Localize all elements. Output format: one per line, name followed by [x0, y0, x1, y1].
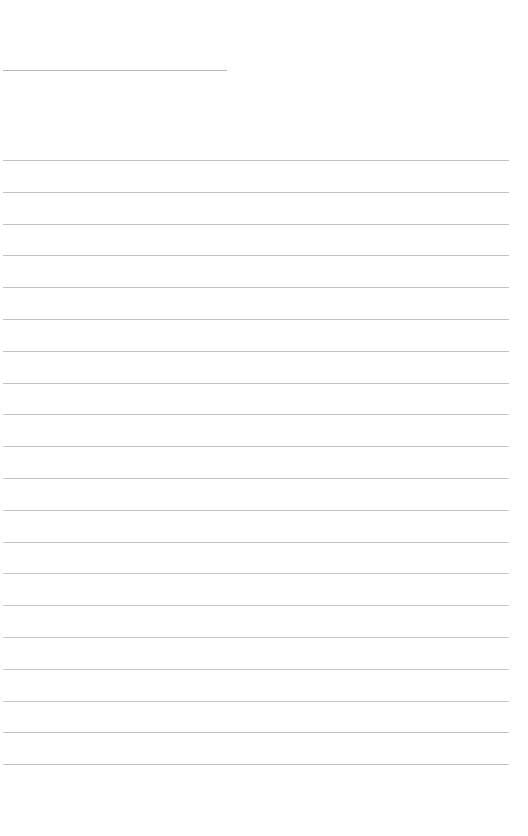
- ruled-line: [3, 573, 509, 574]
- ruled-line: [3, 319, 509, 320]
- ruled-line: [3, 637, 509, 638]
- title-underline: [3, 70, 227, 71]
- ruled-line: [3, 732, 509, 733]
- ruled-line: [3, 478, 509, 479]
- ruled-line: [3, 351, 509, 352]
- ruled-line: [3, 255, 509, 256]
- ruled-line: [3, 414, 509, 415]
- ruled-line: [3, 287, 509, 288]
- ruled-line: [3, 383, 509, 384]
- ruled-line: [3, 669, 509, 670]
- ruled-line: [3, 701, 509, 702]
- ruled-line: [3, 605, 509, 606]
- ruled-line: [3, 160, 509, 161]
- ruled-line: [3, 224, 509, 225]
- ruled-line: [3, 542, 509, 543]
- ruled-line: [3, 764, 509, 765]
- ruled-line: [3, 446, 509, 447]
- ruled-line: [3, 510, 509, 511]
- ruled-line: [3, 192, 509, 193]
